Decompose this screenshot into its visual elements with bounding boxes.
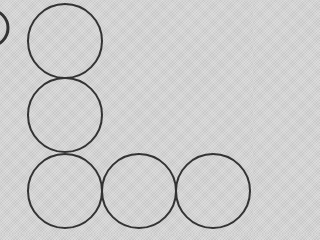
diagram-canvas [0, 0, 253, 234]
circles-diagram [0, 0, 253, 234]
circle-column-top [28, 4, 102, 78]
partial-arc-fragment [0, 10, 8, 46]
circle-column-middle [28, 78, 102, 152]
circle-row-right [176, 154, 250, 228]
circle-row-middle [102, 154, 176, 228]
circle-corner [28, 154, 102, 228]
